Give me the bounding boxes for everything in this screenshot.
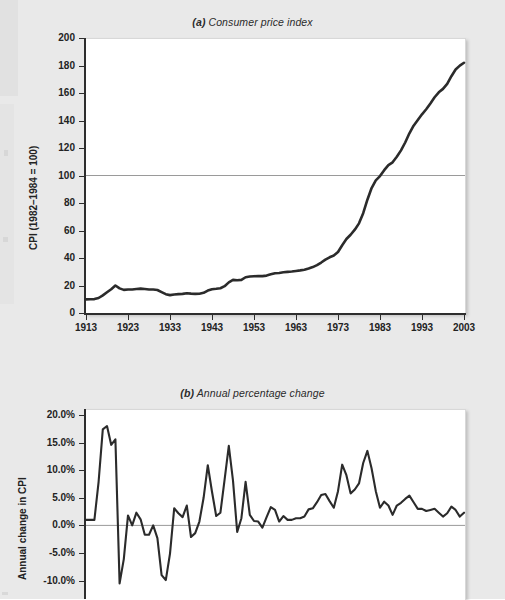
figure-b-series-canvas	[0, 370, 505, 599]
figure-b-annual-change-line	[86, 426, 464, 583]
figure-consumer-price-index: (a) Consumer price index 0 20 40 60 80 1…	[0, 0, 505, 360]
figure-a-series-canvas	[0, 0, 505, 360]
figure-annual-percentage-change: (b) Annual percentage change 20.0% 15.0%…	[0, 370, 505, 599]
figure-a-cpi-line	[86, 63, 464, 300]
